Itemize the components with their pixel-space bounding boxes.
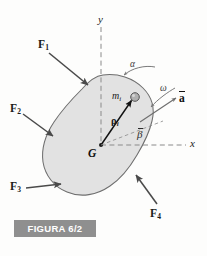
force-f4-base: F: [150, 207, 157, 219]
acceleration-label: a: [179, 92, 207, 105]
force-arrow-f2: [23, 114, 53, 136]
beta-angle-label: β: [137, 128, 142, 140]
accel-symbol: a: [179, 92, 185, 105]
force-f2-base: F: [10, 102, 17, 114]
y-axis-label: y: [98, 14, 103, 25]
figure-caption: FIGURA 6/2: [14, 220, 96, 237]
x-axis-label: x: [190, 138, 195, 149]
force-f1-base: F: [38, 38, 45, 50]
beta-symbol: β: [137, 128, 142, 140]
force-f2-sub: 2: [17, 107, 21, 116]
force-f3-sub: 3: [17, 185, 21, 194]
force-label-f1: F1: [38, 39, 49, 51]
alpha-arc: [124, 66, 155, 75]
force-f1-sub: 1: [45, 43, 49, 52]
figure-container: y x G F1 F2 F3 F4 α ω mi ρi β a FIGURA 6…: [0, 0, 207, 256]
particle-mi-highlight: [132, 94, 135, 97]
angular-velocity-label: ω: [160, 84, 167, 94]
force-f4-sub: 4: [157, 212, 161, 221]
angular-acceleration-label: α: [130, 60, 135, 70]
force-arrow-f3: [26, 184, 61, 188]
force-f3-base: F: [10, 180, 17, 192]
force-arrow-f4: [136, 175, 157, 204]
force-label-f4: F4: [150, 208, 161, 220]
rho-sub: i: [117, 120, 119, 128]
center-of-mass-label: G: [88, 148, 96, 160]
figure-caption-text: FIGURA 6/2: [28, 224, 83, 234]
force-label-f3: F3: [10, 181, 21, 193]
mass-sub: i: [119, 95, 121, 103]
force-label-f2: F2: [10, 103, 21, 115]
particle-mi: [131, 93, 140, 102]
force-arrow-f1: [49, 53, 88, 85]
rho-base: ρ: [111, 115, 117, 126]
particle-mass-label: mi: [112, 91, 121, 101]
figure-diagram: [0, 0, 207, 256]
position-vector-label: ρi: [111, 116, 119, 127]
